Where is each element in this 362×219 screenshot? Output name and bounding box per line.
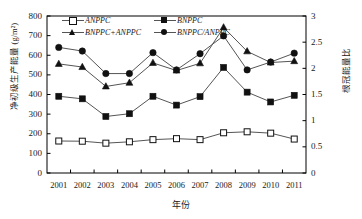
series-group (55, 24, 297, 147)
y-axis-left-tick-label: 0 (16, 169, 42, 178)
chart-figure: 净初级生产能量 (g/m²) 根冠能量比 年份 0100200300400500… (0, 0, 362, 219)
axes-group (47, 16, 306, 173)
y-axis-right-tick-label: 0.5 (311, 142, 337, 151)
y-axis-right-tick-label: 2 (311, 64, 337, 73)
legend-key-bnppc (154, 15, 176, 25)
legend-label-anppc: ANPPC (85, 16, 110, 25)
x-axis-tick-label: 2011 (279, 181, 309, 190)
y-axis-right-tick-label: 1 (311, 116, 337, 125)
y-axis-right-tick-label: 0 (311, 169, 337, 178)
y-axis-right-tick-label: 2.5 (311, 38, 337, 47)
filled-square-marker-icon (161, 17, 167, 23)
legend-item-anppc: ANPPC (62, 14, 154, 26)
y-axis-left-tick-label: 500 (16, 70, 42, 79)
filled-circle-marker-icon (161, 29, 167, 35)
legend-label-bnppc-over-anppc: BNPPC/ANPPC (177, 28, 230, 37)
legend-label-bnppc: BNPPC (177, 16, 202, 25)
filled-triangle-marker-icon (69, 29, 75, 35)
chart-legend: ANPPC BNPPC BNPPC+ANPPC BNPPC/ANPPC (62, 14, 252, 38)
legend-item-bnppc-plus-anppc: BNPPC+ANPPC (62, 26, 154, 38)
y-axis-left-tick-label: 200 (16, 129, 42, 138)
legend-key-bnppc-over-anppc (154, 27, 176, 37)
series-bnppc-over-anppc (56, 33, 298, 77)
y-axis-right-tick-label: 1.5 (311, 90, 337, 99)
y-axis-right-tick-label: 3 (311, 12, 337, 21)
y-axis-left-tick-label: 600 (16, 51, 42, 60)
legend-key-bnppc-plus-anppc (62, 27, 84, 37)
legend-key-anppc (62, 15, 84, 25)
y-axis-left-tick-label: 700 (16, 31, 42, 40)
legend-label-bnppc-plus-anppc: BNPPC+ANPPC (85, 28, 141, 37)
y-axis-left-tick-label: 100 (16, 149, 42, 158)
y-axis-left-tick-label: 400 (16, 90, 42, 99)
open-square-marker-icon (69, 17, 77, 25)
y-axis-left-tick-label: 800 (16, 12, 42, 21)
series-anppc (56, 129, 297, 146)
legend-item-bnppc-over-anppc: BNPPC/ANPPC (154, 26, 252, 38)
legend-item-bnppc: BNPPC (154, 14, 252, 26)
y-axis-left-tick-label: 300 (16, 110, 42, 119)
